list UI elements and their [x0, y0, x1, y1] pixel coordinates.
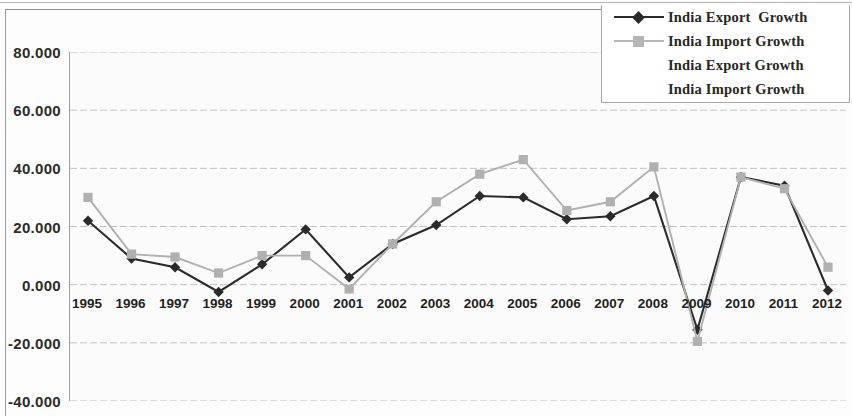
x-axis-tick-label: 2000	[290, 296, 320, 311]
data-point-marker	[562, 214, 572, 224]
legend-item[interactable]: India Export Growth	[602, 5, 849, 29]
x-axis-tick-label: 2003	[420, 296, 450, 311]
legend-item[interactable]: India Export Growth	[602, 53, 849, 77]
data-point-marker	[518, 192, 528, 202]
y-axis-tick-label: -20.000	[8, 334, 61, 351]
x-axis-tick-label: 2002	[377, 296, 407, 311]
data-point-marker	[475, 170, 484, 179]
data-point-marker	[562, 206, 571, 215]
data-point-marker	[432, 197, 441, 206]
legend-key-swatch	[612, 10, 668, 24]
legend-marker-diamond-icon	[632, 11, 645, 24]
plot-area	[69, 52, 845, 401]
top-rule	[0, 2, 852, 3]
data-point-marker	[127, 250, 136, 259]
y-axis-tick-label: 0.000	[22, 276, 61, 293]
chart-legend: India Export GrowthIndia Import GrowthIn…	[601, 5, 850, 103]
x-axis-tick-label: 2011	[769, 296, 798, 311]
legend-label: India Export Growth	[668, 57, 804, 74]
data-point-marker	[649, 162, 658, 171]
x-axis: 1995199619971998199920002001200220032004…	[69, 296, 845, 318]
x-axis-tick-label: 2012	[812, 296, 842, 311]
data-point-marker	[605, 211, 615, 221]
legend-marker-square-icon	[633, 36, 644, 47]
legend-key-swatch	[612, 58, 668, 72]
legend-item[interactable]: India Import Growth	[602, 29, 849, 53]
data-point-marker	[519, 155, 528, 164]
data-point-marker	[693, 337, 702, 346]
legend-label: India Import Growth	[668, 81, 804, 98]
y-axis: 80.00060.00040.00020.0000.000-20.000-40.…	[0, 0, 69, 416]
data-point-marker	[170, 262, 180, 272]
data-point-marker	[83, 193, 92, 202]
legend-label: India Export Growth	[668, 9, 808, 26]
y-axis-tick-label: 40.000	[13, 160, 61, 177]
data-point-marker	[214, 268, 223, 277]
y-axis-tick-label: 20.000	[13, 218, 61, 235]
x-axis-tick-label: 2006	[551, 296, 581, 311]
plot-svg	[70, 52, 846, 401]
x-axis-tick-label: 1996	[115, 296, 145, 311]
x-axis-tick-label: 1997	[159, 296, 189, 311]
y-axis-tick-label: -40.000	[8, 393, 61, 410]
data-point-marker	[780, 184, 789, 193]
chart-container: 80.00060.00040.00020.0000.000-20.000-40.…	[0, 0, 852, 416]
legend-key-swatch	[612, 82, 668, 96]
data-point-marker	[823, 263, 832, 272]
x-axis-tick-label: 2001	[333, 296, 363, 311]
data-point-marker	[606, 197, 615, 206]
x-axis-tick-label: 2010	[725, 296, 755, 311]
data-point-marker	[823, 285, 833, 295]
x-axis-tick-label: 2007	[594, 296, 624, 311]
legend-key-swatch	[612, 34, 668, 48]
x-axis-tick-label: 2005	[507, 296, 537, 311]
legend-label: India Import Growth	[668, 33, 804, 50]
data-point-marker	[258, 251, 267, 260]
x-axis-tick-label: 2008	[638, 296, 668, 311]
data-point-marker	[388, 239, 397, 248]
x-axis-tick-label: 1995	[72, 296, 102, 311]
y-axis-tick-label: 80.000	[13, 44, 61, 61]
x-axis-tick-label: 1999	[246, 296, 276, 311]
x-axis-tick-label: 2004	[464, 296, 494, 311]
x-axis-tick-label: 1998	[203, 296, 233, 311]
data-point-marker	[301, 251, 310, 260]
data-point-marker	[649, 191, 659, 201]
y-axis-tick-label: 60.000	[13, 102, 61, 119]
data-point-marker	[345, 284, 354, 293]
legend-item[interactable]: India Import Growth	[602, 77, 849, 101]
data-point-marker	[736, 172, 745, 181]
data-point-marker	[170, 252, 179, 261]
x-axis-tick-label: 2009	[681, 296, 711, 311]
